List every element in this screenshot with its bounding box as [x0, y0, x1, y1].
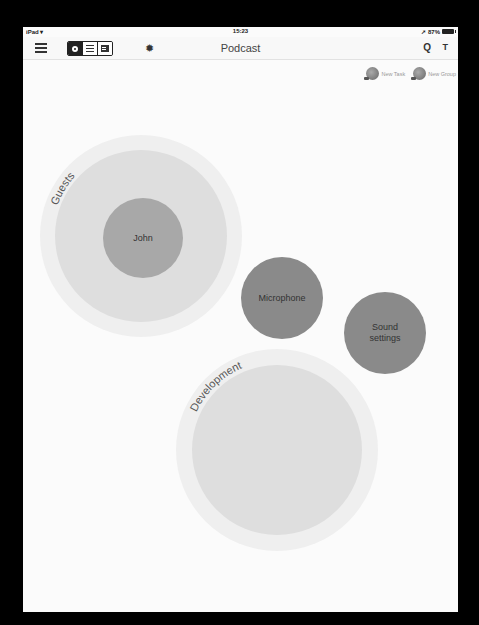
new-task-icon	[366, 67, 379, 80]
ipad-screen: iPad ▾ 15:23 ➚ 87% ✹ Podcast Q T New Tas…	[23, 27, 458, 612]
status-time: 15:23	[23, 28, 458, 34]
detail-view-button[interactable]	[97, 42, 112, 55]
task-john-label: John	[133, 233, 153, 244]
circle-icon	[72, 46, 78, 52]
toolbar: ✹ Podcast Q T	[23, 37, 458, 60]
list-icon	[86, 45, 94, 52]
hamburger-menu-icon[interactable]	[35, 43, 47, 53]
task-john[interactable]: John	[103, 198, 183, 278]
group-development-inner	[192, 365, 362, 535]
new-group-label: New Group	[428, 71, 456, 77]
new-task-label: New Task	[381, 71, 405, 77]
new-task-button[interactable]: New Task	[366, 67, 405, 80]
status-bar: iPad ▾ 15:23 ➚ 87%	[23, 27, 458, 37]
new-group-icon	[413, 67, 426, 80]
card-icon	[101, 45, 109, 52]
search-icon[interactable]: Q	[423, 42, 431, 53]
status-right: ➚ 87%	[421, 28, 454, 35]
task-sound-settings-label-line2: settings	[369, 333, 400, 344]
task-microphone[interactable]: Microphone	[241, 257, 323, 339]
bubble-view-button[interactable]	[68, 42, 82, 55]
battery-icon	[442, 29, 454, 34]
task-sound-settings-label-line1: Sound	[372, 322, 398, 333]
group-development[interactable]	[176, 349, 378, 551]
location-arrow-icon: ➚	[421, 28, 426, 35]
task-microphone-label: Microphone	[258, 293, 305, 304]
new-group-button[interactable]: New Group	[413, 67, 456, 80]
task-sound-settings[interactable]: Sound settings	[344, 292, 426, 374]
battery-percent: 87%	[428, 29, 440, 35]
list-view-button[interactable]	[82, 42, 97, 55]
canvas-actions: New Task New Group	[366, 67, 456, 80]
view-mode-segmented-control	[67, 41, 113, 56]
filter-icon[interactable]: T	[443, 42, 449, 52]
gear-icon[interactable]: ✹	[144, 43, 154, 53]
